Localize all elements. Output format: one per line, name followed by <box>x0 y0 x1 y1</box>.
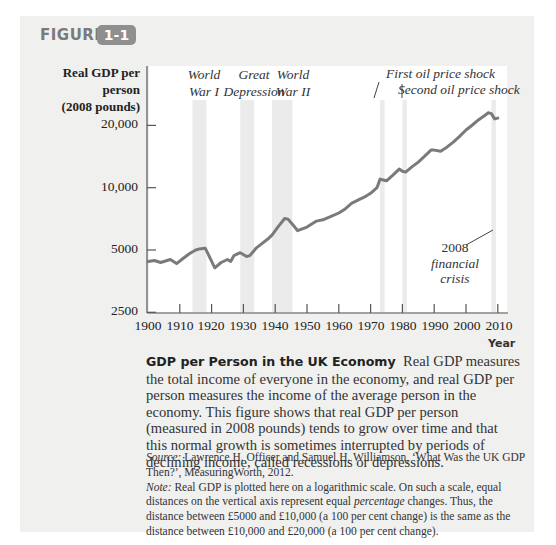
y-tick-label-20000: 20,000 <box>101 116 138 132</box>
shaded-band <box>380 100 384 312</box>
shaded-band <box>193 100 207 312</box>
shaded-band <box>491 100 495 312</box>
annotation-ww2: World War II <box>268 66 318 100</box>
source-note: Source: Lawrence H. Officer and Samuel H… <box>146 450 526 480</box>
caption-title: GDP per Person in the UK Economy <box>146 354 396 369</box>
shaded-band <box>402 100 406 312</box>
shaded-band <box>272 100 292 312</box>
y-tick-label-2500: 2500 <box>111 303 138 319</box>
x-tick-label: 2010 <box>479 318 519 334</box>
annotation-ww2-line2: War II <box>268 83 318 100</box>
annotation-ww2-line1: World <box>268 66 318 83</box>
source-text: Lawrence H. Officer and Samuel H. Willia… <box>146 451 525 478</box>
figure-notes: Source: Lawrence H. Officer and Samuel H… <box>146 450 526 539</box>
annotation-crisis-line3: crisis <box>427 270 483 287</box>
note-emphasis: percentage <box>354 495 405 507</box>
x-axis-title: Year <box>488 337 515 350</box>
annotation-first-oil-shock: First oil price shock <box>386 65 495 82</box>
y-tick-label-5000: 5000 <box>111 241 138 257</box>
shaded-band <box>240 100 254 312</box>
note-label: Note: <box>146 481 172 493</box>
y-tick-label-10000: 10,000 <box>101 179 138 195</box>
scale-note: Note: Real GDP is plotted here on a loga… <box>146 480 526 539</box>
annotation-crisis-year: 2008 <box>430 239 480 256</box>
source-label: Source: <box>146 451 181 463</box>
annotation-second-oil-shock: Second oil price shock <box>398 81 520 98</box>
